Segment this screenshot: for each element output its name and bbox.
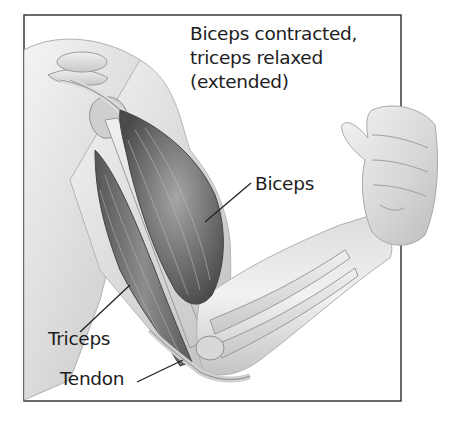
elbow-joint <box>196 336 224 360</box>
biceps-label: Biceps <box>255 172 314 196</box>
anatomy-figure: Biceps contracted, triceps relaxed (exte… <box>0 0 450 425</box>
title-line-1: Biceps contracted, <box>190 22 357 46</box>
tendon-label: Tendon <box>60 367 124 391</box>
figure-title: Biceps contracted, triceps relaxed (exte… <box>190 22 357 94</box>
title-line-2: triceps relaxed <box>190 46 357 70</box>
triceps-label: Triceps <box>48 327 110 351</box>
title-line-3: (extended) <box>190 70 357 94</box>
acromion-bone <box>57 52 107 72</box>
